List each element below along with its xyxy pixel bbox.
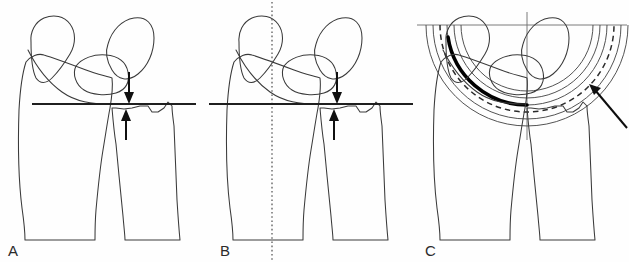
variance-arrow-up-head xyxy=(121,109,131,121)
scaphoid-outline xyxy=(31,16,75,83)
articular-surface-curve xyxy=(236,50,318,104)
annotation-arrow-shaft xyxy=(595,90,627,128)
ulna-outline xyxy=(112,102,180,240)
ulna-outline xyxy=(320,102,388,240)
figure-root: A B xyxy=(0,0,629,262)
variance-arrow-up-head xyxy=(329,109,339,121)
triquetrum-outline xyxy=(106,18,154,79)
articular-surface-curve xyxy=(28,50,110,104)
panel-label-b: B xyxy=(220,243,231,258)
variance-arrow-down-head xyxy=(124,92,134,104)
triquetrum-outline xyxy=(521,18,569,79)
panel-label-c: C xyxy=(425,243,436,258)
panel-c: C xyxy=(415,0,629,262)
triquetrum-outline xyxy=(314,18,362,79)
panel-a: A xyxy=(0,0,210,262)
panel-label-a: A xyxy=(8,243,19,258)
panel-b: B xyxy=(208,0,420,262)
variance-arrow-down-head xyxy=(332,92,342,104)
radius-outline xyxy=(433,54,527,240)
radius-outline xyxy=(18,54,112,240)
radius-outline xyxy=(226,54,320,240)
ulna-outline xyxy=(527,102,595,240)
scaphoid-outline xyxy=(239,16,283,83)
